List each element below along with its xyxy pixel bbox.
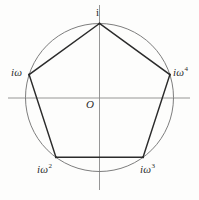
vertex-label-i: i [96,7,99,18]
vertex-point-iw2 [55,156,57,158]
vertex-label-iomega3-text: iω [140,163,151,175]
vertex-label-iomega2-text: iω [37,163,48,175]
origin-label: O [86,99,94,110]
vertex-point-iw4 [169,74,171,76]
vertex-label-iomega3: iω3 [140,164,155,175]
vertex-label-iomega2-exponent: 2 [49,162,53,170]
vertex-label-iomega2: iω2 [37,164,52,175]
complex-plane-figure [0,0,199,200]
vertex-label-i-text: i [96,6,99,18]
figure-container: i iω iω4 iω2 iω3 O [0,0,199,200]
vertex-label-iomega-text: iω [11,66,22,78]
vertex-point-i [98,22,100,24]
vertex-label-iomega4-exponent: 4 [185,65,189,73]
vertex-label-iomega4-text: iω [173,66,184,78]
vertex-point-iw1 [28,74,30,76]
vertex-label-iomega: iω [11,67,22,78]
vertex-label-iomega3-exponent: 3 [152,162,156,170]
vertex-label-iomega4: iω4 [173,67,188,78]
vertex-point-iw3 [142,156,144,158]
